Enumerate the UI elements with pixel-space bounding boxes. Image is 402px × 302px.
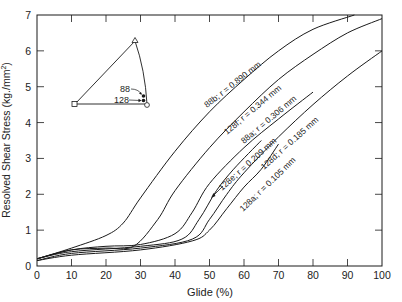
arrow-128e-icon	[211, 186, 223, 198]
dot-88-icon	[142, 94, 146, 98]
x-tick-label: 40	[169, 269, 181, 281]
y-tick-label: 5	[25, 81, 31, 93]
y-tick-label: 4	[25, 117, 31, 129]
x-tick-label: 90	[342, 269, 354, 281]
circle-marker-icon	[145, 103, 150, 108]
y-tick-label: 2	[25, 188, 31, 200]
square-marker-icon	[72, 102, 77, 107]
curve-128e	[37, 141, 261, 259]
inset-label-88: 88	[120, 84, 130, 94]
y-axis-ticks: 01234567	[25, 9, 382, 272]
dot-128-icon	[142, 99, 146, 103]
shear-stress-chart: 0102030405060708090100 01234567 Glide (%…	[0, 0, 402, 302]
curve-88b	[37, 15, 354, 259]
curves	[37, 15, 382, 261]
inset-stereographic-triangle: 88 128	[72, 38, 149, 108]
curve-128d	[37, 51, 382, 261]
triangle-marker-icon	[132, 38, 138, 43]
x-tick-label: 30	[135, 269, 147, 281]
x-tick-label: 20	[100, 269, 112, 281]
y-tick-label: 3	[25, 152, 31, 164]
x-tick-label: 10	[66, 269, 78, 281]
y-tick-label: 1	[25, 224, 31, 236]
x-tick-label: 100	[373, 269, 391, 281]
x-tick-label: 80	[307, 269, 319, 281]
y-tick-label: 7	[25, 9, 31, 21]
y-axis-label: Resolved Shear Stress (kg./mm2)	[0, 62, 12, 218]
y-tick-label: 0	[25, 260, 31, 272]
x-tick-label: 60	[238, 269, 250, 281]
x-tick-label: 0	[34, 269, 40, 281]
plot-frame	[37, 15, 382, 266]
x-axis-ticks: 0102030405060708090100	[34, 15, 391, 281]
curve-128f	[37, 19, 382, 259]
x-tick-label: 70	[273, 269, 285, 281]
x-axis-label: Glide (%)	[187, 286, 233, 298]
x-tick-label: 50	[204, 269, 216, 281]
inset-label-128: 128	[114, 95, 129, 105]
y-tick-label: 6	[25, 45, 31, 57]
